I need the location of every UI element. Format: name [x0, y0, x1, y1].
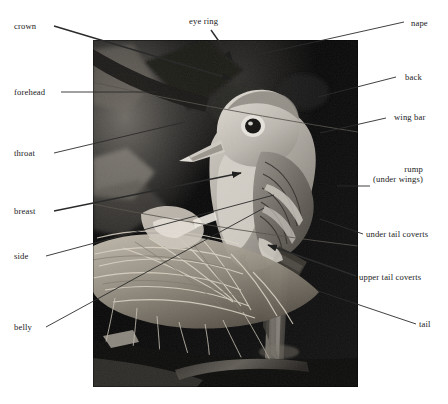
label-under-tail-coverts: under tail coverts: [366, 229, 428, 239]
label-text-under-tail-coverts: under tail coverts: [366, 229, 428, 239]
label-text-nape: nape: [411, 18, 428, 28]
label-wing-bar: wing bar: [394, 112, 426, 122]
label-forehead: forehead: [14, 87, 45, 97]
label-text-crown: crown: [14, 21, 36, 31]
label-breast: breast: [14, 206, 35, 216]
label-eye-ring: eye ring: [189, 16, 218, 26]
label-back: back: [405, 72, 422, 82]
label-text-wing-bar: wing bar: [394, 112, 426, 122]
label-text-upper-tail-coverts: upper tail coverts: [359, 272, 421, 282]
label-text-side: side: [14, 251, 28, 261]
photo-of-bird-at-nest: [93, 40, 358, 387]
label-text-rump: rump: [404, 164, 423, 174]
label-text-breast: breast: [14, 206, 35, 216]
label-side: side: [14, 251, 28, 261]
label-tail: tail: [419, 319, 431, 329]
label-belly: belly: [14, 322, 32, 332]
bird-anatomy-figure: crowneye ringnapebackforeheadwing barthr…: [0, 0, 448, 404]
label-text-belly: belly: [14, 322, 32, 332]
label-subtext-rump: (under wings): [373, 174, 423, 184]
photo-graphic: [93, 40, 358, 387]
label-rump: rump(under wings): [373, 164, 423, 184]
label-text-forehead: forehead: [14, 87, 45, 97]
label-text-back: back: [405, 72, 422, 82]
label-text-tail: tail: [419, 319, 431, 329]
label-text-throat: throat: [14, 148, 35, 158]
label-text-eye-ring: eye ring: [189, 16, 218, 26]
label-upper-tail-coverts: upper tail coverts: [359, 272, 421, 282]
label-crown: crown: [14, 21, 36, 31]
label-nape: nape: [411, 18, 428, 28]
label-throat: throat: [14, 148, 35, 158]
